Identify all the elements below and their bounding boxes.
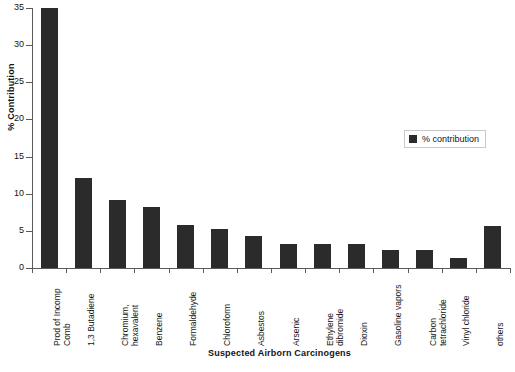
y-tick-label: 0	[4, 262, 24, 272]
y-tick-label: 5	[4, 225, 24, 235]
x-tick	[510, 268, 511, 273]
y-tick-label: 30	[4, 39, 24, 49]
x-category-label: Arsenic	[292, 318, 302, 346]
legend-label: % contribution	[422, 134, 479, 144]
x-category-label: Gasoline vapors	[394, 285, 404, 346]
x-category-label: Benzene	[155, 312, 165, 346]
x-category-label: Prod of Incomp Comb	[53, 288, 72, 346]
bar	[177, 225, 194, 268]
x-category-label: Formaldehyde	[189, 292, 199, 346]
bar	[382, 250, 399, 268]
x-category-label: Dioxin	[360, 322, 370, 346]
bar	[245, 236, 262, 268]
bar	[416, 250, 433, 268]
bar	[41, 8, 58, 268]
bar	[75, 178, 92, 268]
x-category-label: Ethylene dibromide	[326, 309, 345, 346]
y-tick-label: 25	[4, 76, 24, 86]
x-category-label: Chromium, hexavalent	[121, 304, 140, 346]
bar	[109, 200, 126, 268]
x-category-label: Vinyl chloride	[462, 296, 472, 346]
bar	[280, 244, 297, 268]
bar	[450, 258, 467, 268]
x-axis-title: Suspected Airborn Carcinogens	[0, 348, 515, 358]
y-axis-title: % Contribution	[6, 42, 16, 152]
y-tick-label: 15	[4, 151, 24, 161]
bar	[484, 226, 501, 268]
x-category-label: 1,3 Butadiene	[87, 294, 97, 346]
bar	[348, 244, 365, 269]
bar	[314, 244, 331, 268]
y-tick-label: 35	[4, 2, 24, 12]
legend-swatch-icon	[409, 135, 417, 143]
legend: % contribution	[404, 130, 486, 148]
y-tick-label: 20	[4, 113, 24, 123]
bar	[143, 207, 160, 268]
y-tick-label: 10	[4, 188, 24, 198]
x-category-label: Asbestos	[257, 311, 267, 346]
x-axis-category-labels: Prod of Incomp Comb1,3 ButadieneChromium…	[32, 272, 510, 350]
bar	[211, 229, 228, 268]
chart-canvas: % Contribution 05101520253035 Prod of In…	[0, 0, 515, 372]
x-category-label: others	[496, 322, 506, 346]
x-category-label: Carbon tetrachloride	[429, 299, 448, 346]
x-category-label: Chloroform	[223, 304, 233, 346]
